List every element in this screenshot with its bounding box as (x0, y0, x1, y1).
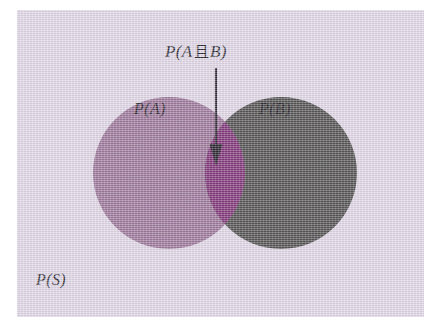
label-set-a: P(A) (134, 100, 166, 118)
label-sample-space: P(S) (36, 271, 66, 289)
diagram-panel: P(A且B) P(A) P(B) P(S) (17, 10, 424, 317)
label-intersection-suffix: B) (210, 42, 227, 61)
label-intersection-prefix: P(A (165, 42, 193, 61)
label-intersection: P(A且B) (165, 40, 227, 62)
venn-diagram-figure: P(A且B) P(A) P(B) P(S) (0, 0, 426, 318)
label-set-b: P(B) (259, 100, 291, 118)
label-intersection-connector: 且 (193, 43, 210, 61)
